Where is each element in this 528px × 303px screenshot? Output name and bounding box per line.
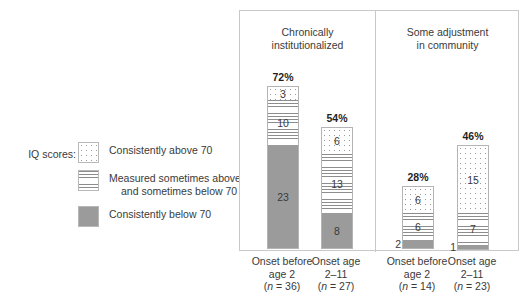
- bar-segment-value-label: 23: [268, 191, 298, 202]
- bar-segment-lines[interactable]: 10: [267, 100, 299, 145]
- x-axis-label-sample-size: (n = 27): [318, 280, 355, 292]
- x-axis-label-line2: age 2: [404, 268, 430, 280]
- bar-total-percent-label: 28%: [392, 171, 444, 183]
- bar-segment-value-label: 6: [403, 195, 433, 206]
- chart-plot-area: Chronically institutionalized Some adjus…: [239, 10, 519, 251]
- panel-title-line1: Some adjustment: [407, 26, 489, 38]
- bar-segment-solid[interactable]: 2: [402, 240, 434, 249]
- stacked-bar[interactable]: 28%662: [402, 186, 434, 249]
- x-axis-label-sample-size: (n = 36): [264, 280, 301, 292]
- bar-segment-solid[interactable]: 1: [457, 245, 489, 250]
- bar-segment-solid[interactable]: 8: [321, 213, 353, 249]
- x-axis-label-line2: 2–11: [325, 268, 348, 280]
- x-axis-label-sample-size: (n = 14): [399, 280, 436, 292]
- legend-item-label: Consistently above 70: [109, 144, 212, 157]
- legend-label-line2: and sometimes below 70: [109, 185, 241, 198]
- x-axis-label: Onset age2–11(n = 27): [296, 255, 376, 293]
- bar-segment-value-label: 3: [268, 88, 298, 99]
- legend-label-line1: Consistently below 70: [109, 208, 211, 220]
- bar-total-percent-label: 46%: [447, 130, 499, 142]
- bar-segment-dots[interactable]: 6: [321, 127, 353, 154]
- bar-segment-dots[interactable]: 15: [457, 145, 489, 213]
- bar-segment-value-label: 6: [403, 221, 433, 232]
- x-axis-label-line2: age 2: [269, 268, 295, 280]
- bar-segment-value-label: 2: [389, 239, 401, 250]
- legend-swatch-dots-icon: [78, 142, 99, 163]
- bar-segment-value-label: 7: [458, 224, 488, 235]
- legend-label-line1: Consistently above 70: [109, 144, 212, 156]
- stacked-bar[interactable]: 46%1571: [457, 145, 489, 249]
- x-axis-label-line1: Onset age: [448, 255, 496, 267]
- bar-segment-dots[interactable]: 3: [267, 86, 299, 100]
- chart-legend: IQ scores: Consistently above 70 Measure…: [0, 138, 236, 228]
- stacked-bar[interactable]: 54%6138: [321, 127, 353, 249]
- x-axis-label-sample-size: (n = 23): [454, 280, 491, 292]
- panel-title-some-adjustment-in-community: Some adjustment in community: [376, 26, 519, 52]
- x-axis-label: Onset age2–11(n = 23): [432, 255, 512, 293]
- bar-segment-solid[interactable]: 23: [267, 145, 299, 249]
- bar-segment-lines[interactable]: 6: [402, 213, 434, 240]
- bar-segment-value-label: 13: [322, 178, 352, 189]
- bar-total-percent-label: 54%: [311, 112, 363, 124]
- legend-item-label: Measured sometimes above and sometimes b…: [109, 172, 241, 197]
- stacked-bar[interactable]: 72%31023: [267, 86, 299, 249]
- bar-segment-dots[interactable]: 6: [402, 186, 434, 213]
- bar-segment-value-label: 10: [268, 117, 298, 128]
- bar-segment-value-label: 6: [322, 136, 352, 147]
- x-axis-label-line2: 2–11: [461, 268, 484, 280]
- x-axis-label-line1: Onset age: [312, 255, 360, 267]
- bar-total-percent-label: 72%: [257, 71, 309, 83]
- bar-segment-lines[interactable]: 13: [321, 154, 353, 213]
- bar-segment-value-label: 1: [444, 242, 456, 253]
- panel-title-line2: in community: [417, 39, 479, 51]
- legend-item-label: Consistently below 70: [109, 208, 211, 221]
- panel-title-chronically-institutionalized: Chronically institutionalized: [240, 26, 375, 52]
- bar-segment-value-label: 15: [458, 174, 488, 185]
- bar-segment-lines[interactable]: 7: [457, 213, 489, 245]
- panel-title-line1: Chronically: [282, 26, 334, 38]
- legend-label-line1: Measured sometimes above: [109, 172, 241, 184]
- bar-segment-value-label: 8: [322, 225, 352, 236]
- legend-title: IQ scores:: [16, 148, 76, 160]
- legend-swatch-lines-icon: [78, 170, 99, 191]
- legend-swatch-solid-icon: [78, 206, 99, 227]
- panel-title-line2: institutionalized: [272, 39, 344, 51]
